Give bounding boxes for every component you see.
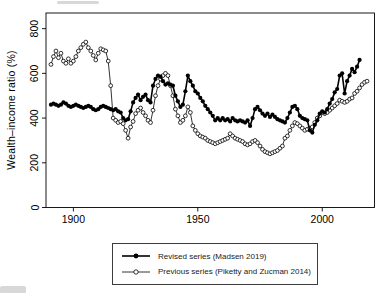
svg-text:200: 200 bbox=[29, 154, 41, 172]
legend-item-revised-series: Revised series (Madsen 2019) bbox=[121, 251, 313, 261]
legend-label-previous-series: Previous series (Piketty and Zucman 2014… bbox=[158, 267, 311, 276]
svg-text:800: 800 bbox=[29, 20, 41, 38]
svg-text:1950: 1950 bbox=[186, 213, 210, 225]
svg-text:400: 400 bbox=[29, 109, 41, 127]
svg-text:1900: 1900 bbox=[62, 213, 86, 225]
scan-artifact-top bbox=[57, 1, 99, 4]
legend-label-revised-series: Revised series (Madsen 2019) bbox=[158, 252, 267, 261]
cropped-caption-artifact bbox=[0, 286, 26, 293]
svg-text:600: 600 bbox=[29, 64, 41, 82]
open-circle-marker-icon bbox=[121, 267, 151, 277]
y-axis-label: Wealth–income ratio (%) bbox=[5, 50, 17, 169]
svg-text:0: 0 bbox=[29, 204, 41, 210]
wealth-income-ratio-figure: 1900195020000200400600800 Wealth–income … bbox=[0, 0, 389, 293]
legend-item-previous-series: Previous series (Piketty and Zucman 2014… bbox=[121, 267, 313, 277]
chart-legend: Revised series (Madsen 2019) Previous se… bbox=[112, 243, 318, 285]
svg-text:2000: 2000 bbox=[311, 213, 335, 225]
filled-circle-marker-icon bbox=[121, 251, 151, 261]
chart-plot-area: 1900195020000200400600800 bbox=[0, 0, 389, 240]
